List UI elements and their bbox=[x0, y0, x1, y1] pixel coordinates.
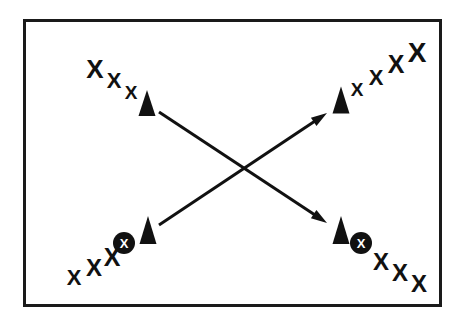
x-mark: X bbox=[86, 254, 102, 281]
x-mark: X bbox=[411, 270, 427, 297]
diagram-figure: XXXXXXXXXXXXXXX bbox=[0, 0, 465, 325]
x-mark: X bbox=[107, 68, 122, 93]
circled-x-glyph: X bbox=[357, 236, 366, 251]
diagram-canvas: XXXXXXXXXXXXXXX bbox=[0, 0, 465, 325]
x-mark: X bbox=[67, 265, 82, 290]
x-mark: X bbox=[86, 54, 104, 84]
x-mark: X bbox=[388, 50, 405, 78]
x-mark: X bbox=[408, 37, 427, 68]
x-mark: X bbox=[125, 82, 138, 103]
circled-x-glyph: X bbox=[120, 236, 129, 251]
x-mark: X bbox=[392, 259, 408, 286]
x-mark: X bbox=[369, 65, 384, 90]
x-mark: X bbox=[351, 79, 364, 100]
x-mark: X bbox=[373, 248, 389, 275]
